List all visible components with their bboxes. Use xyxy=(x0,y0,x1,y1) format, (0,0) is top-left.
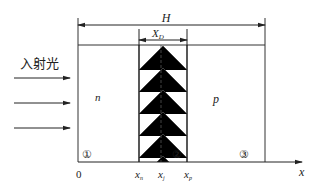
photodiode-structure-diagram: 入射光 H XD x 0 xn xj xp n p ① ② ③ xyxy=(0,0,320,193)
incident-light-label: 入射光 xyxy=(20,56,59,71)
region-p-label: p xyxy=(212,92,219,106)
dimension-xd-label: XD xyxy=(151,27,164,41)
region-marker-2: ② xyxy=(172,148,182,160)
x-axis-label: x xyxy=(298,165,305,179)
tick-xj: xj xyxy=(157,168,165,181)
region-marker-3: ③ xyxy=(239,148,249,160)
region-n-label: n xyxy=(95,91,101,103)
tick-xp: xp xyxy=(183,168,192,181)
dimension-h-label: H xyxy=(161,11,172,25)
incident-light-arrows xyxy=(14,78,70,128)
tick-xn: xn xyxy=(134,168,143,181)
region-marker-1: ① xyxy=(82,148,92,160)
origin-label: 0 xyxy=(76,168,82,180)
